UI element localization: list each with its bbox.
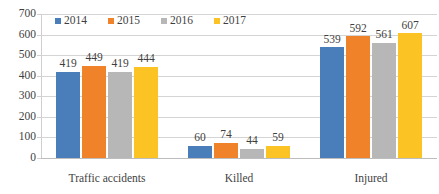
bar-slot: 592 (346, 14, 370, 158)
legend-item[interactable]: 2017 (214, 15, 246, 27)
bar-slot: 444 (134, 14, 158, 158)
bar[interactable] (108, 72, 132, 158)
x-axis-category-label: Killed (173, 163, 305, 191)
legend-item[interactable]: 2014 (55, 15, 87, 27)
legend-item[interactable]: 2016 (161, 15, 193, 27)
plot-area: 41944941944460744459539592561607 (41, 14, 437, 158)
bar-value-label: 449 (85, 52, 102, 64)
legend-item[interactable]: 2015 (108, 15, 140, 27)
bar[interactable] (398, 33, 422, 158)
bar-slot: 419 (56, 14, 80, 158)
y-axis-tickmark (37, 96, 41, 97)
y-axis-tickmark (37, 137, 41, 138)
bar[interactable] (266, 146, 290, 158)
bar-slot: 60 (188, 14, 212, 158)
bar-group: 419449419444 (41, 14, 173, 158)
bar-group: 539592561607 (305, 14, 437, 158)
bar[interactable] (188, 146, 212, 158)
y-axis-tick-label: 100 (2, 132, 36, 144)
y-axis-tickmark (37, 158, 41, 159)
axis-baseline (41, 158, 437, 159)
bar-value-label: 444 (137, 53, 154, 65)
x-axis-category-label: Traffic accidents (41, 163, 173, 191)
bar-slot: 419 (108, 14, 132, 158)
y-axis-tick-label: 200 (2, 111, 36, 123)
y-axis-tick-label: 0 (2, 152, 36, 164)
x-axis: Traffic accidentsKilledInjured (41, 163, 437, 191)
x-axis-category-label: Injured (305, 163, 437, 191)
bar-slot: 74 (214, 14, 238, 158)
legend-label: 2014 (64, 15, 87, 27)
y-axis-tickmark (37, 76, 41, 77)
y-axis-tickmark (37, 55, 41, 56)
bar[interactable] (240, 149, 264, 158)
bar-group-bars: 60744459 (173, 14, 305, 158)
bar-value-label: 44 (246, 135, 258, 147)
bar-slot: 607 (398, 14, 422, 158)
bar-chart: 0100200300400500600700 41944941944460744… (0, 0, 439, 194)
legend-swatch-icon (108, 18, 114, 24)
y-axis-tick-label: 700 (2, 8, 36, 20)
bar-group-bars: 419449419444 (41, 14, 173, 158)
bar-value-label: 419 (111, 58, 128, 70)
bar-slot: 59 (266, 14, 290, 158)
bar[interactable] (372, 43, 396, 158)
legend-label: 2017 (223, 15, 246, 27)
bar-group: 60744459 (173, 14, 305, 158)
bar-value-label: 74 (220, 129, 232, 141)
bar-groups: 41944941944460744459539592561607 (41, 14, 437, 158)
y-axis-tick-label: 300 (2, 91, 36, 103)
bar[interactable] (346, 36, 370, 158)
bar-slot: 539 (320, 14, 344, 158)
legend-label: 2016 (170, 15, 193, 27)
y-axis: 0100200300400500600700 (0, 0, 36, 194)
bar-value-label: 561 (375, 29, 392, 41)
bar-value-label: 592 (349, 23, 366, 35)
bar[interactable] (214, 143, 238, 158)
bar-slot: 449 (82, 14, 106, 158)
bar-value-label: 59 (272, 132, 284, 144)
bar-slot: 44 (240, 14, 264, 158)
bar-slot: 561 (372, 14, 396, 158)
y-axis-tickmark (37, 117, 41, 118)
y-axis-tick-label: 500 (2, 49, 36, 61)
bar-value-label: 539 (323, 34, 340, 46)
legend-label: 2015 (117, 15, 140, 27)
bar-value-label: 607 (401, 20, 418, 32)
y-axis-tick-label: 400 (2, 70, 36, 82)
bar[interactable] (82, 66, 106, 158)
y-axis-tickmark (37, 35, 41, 36)
bar-group-bars: 539592561607 (305, 14, 437, 158)
legend-swatch-icon (161, 18, 167, 24)
bar[interactable] (134, 67, 158, 158)
bar-value-label: 419 (59, 58, 76, 70)
bar[interactable] (56, 72, 80, 158)
y-axis-tick-label: 600 (2, 29, 36, 41)
y-axis-tickmark (37, 14, 41, 15)
legend-swatch-icon (214, 18, 220, 24)
chart-legend: 2014201520162017 (55, 15, 246, 27)
legend-swatch-icon (55, 18, 61, 24)
bar-value-label: 60 (194, 132, 206, 144)
bar[interactable] (320, 47, 344, 158)
